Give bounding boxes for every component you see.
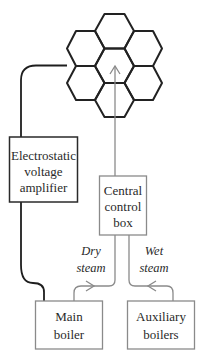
main-boiler-label-line-2: boiler bbox=[54, 327, 85, 342]
wet-steam-label: Wet steam bbox=[139, 244, 168, 275]
amplifier-label-line-3: amplifier bbox=[20, 180, 68, 195]
control-label-line-2: control bbox=[105, 199, 142, 214]
main-boiler-label-line-1: Main bbox=[55, 309, 83, 324]
aux-boilers-label-line-1: Auxiliary bbox=[136, 309, 186, 324]
dry-steam-label: Dry steam bbox=[76, 244, 105, 275]
wire-amplifier-to-main-boiler bbox=[21, 202, 44, 301]
control-label-line-1: Central bbox=[104, 183, 143, 198]
wire-hex-to-amplifier bbox=[21, 66, 67, 138]
aux-boilers-box: Auxiliary boilers bbox=[128, 301, 195, 349]
amplifier-label-line-1: Electrostatic bbox=[11, 148, 76, 163]
control-box: Central control box bbox=[100, 176, 147, 235]
dry-steam-label-line-1: Dry bbox=[80, 244, 101, 258]
main-boiler-box: Main boiler bbox=[36, 301, 103, 349]
steam-power-diagram: Electrostatic voltage amplifier Central … bbox=[0, 0, 202, 357]
amplifier-label-line-2: voltage bbox=[24, 164, 62, 179]
control-label-line-3: box bbox=[113, 215, 133, 230]
wet-steam-label-line-2: steam bbox=[139, 261, 168, 275]
aux-boilers-label-line-2: boilers bbox=[143, 327, 178, 342]
dry-steam-label-line-2: steam bbox=[76, 261, 105, 275]
amplifier-box: Electrostatic voltage amplifier bbox=[10, 137, 78, 202]
wet-steam-label-line-1: Wet bbox=[145, 244, 164, 258]
